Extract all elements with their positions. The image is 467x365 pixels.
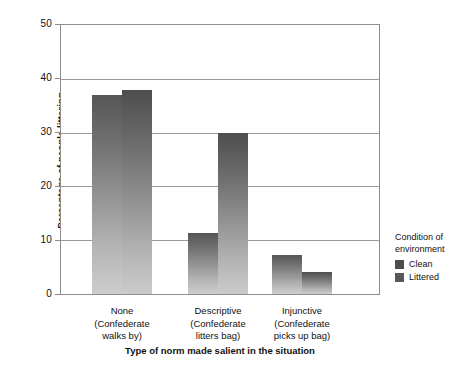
x-group-sub2-none: walks by) xyxy=(67,330,177,343)
x-group-label-injunctive: Injunctive (Confederate picks up bag) xyxy=(247,305,357,343)
y-tick-label-0: 0 xyxy=(4,289,52,299)
y-tick-20: 20 xyxy=(0,181,52,191)
x-group-sub1-injunctive: (Confederate xyxy=(247,318,357,331)
legend-label-littered: Littered xyxy=(409,272,439,282)
y-tick-label-50: 50 xyxy=(4,19,52,29)
legend-title-line1: Condition of xyxy=(395,232,443,242)
legend-item-clean: Clean xyxy=(395,259,467,269)
y-tick-40: 40 xyxy=(0,73,52,83)
y-tick-label-20: 20 xyxy=(4,181,52,191)
legend-title: Condition of environment xyxy=(395,232,467,255)
bar-descriptive-littered xyxy=(218,133,248,294)
legend: Condition of environment Clean Littered xyxy=(395,232,467,282)
gridline-40 xyxy=(61,79,379,80)
x-group-label-none: None (Confederate walks by) xyxy=(67,305,177,343)
y-tick-label-10: 10 xyxy=(4,235,52,245)
bar-chart-figure: Percentage of people littering 50 40 30 … xyxy=(0,0,467,365)
y-tick-10: 10 xyxy=(0,235,52,245)
bar-injunctive-littered xyxy=(302,272,332,294)
legend-swatch-littered-icon xyxy=(395,273,404,282)
bar-none-clean xyxy=(92,95,122,294)
y-tick-label-30: 30 xyxy=(4,127,52,137)
y-tick-label-40: 40 xyxy=(4,73,52,83)
x-group-sub2-injunctive: picks up bag) xyxy=(247,330,357,343)
bar-injunctive-clean xyxy=(272,255,302,294)
x-group-category-none: None xyxy=(67,305,177,318)
bar-descriptive-clean xyxy=(188,233,218,294)
legend-swatch-clean-icon xyxy=(395,260,404,269)
plot-area xyxy=(60,24,380,295)
x-group-sub1-none: (Confederate xyxy=(67,318,177,331)
legend-label-clean: Clean xyxy=(409,259,433,269)
y-tick-50: 50 xyxy=(0,19,52,29)
bar-none-littered xyxy=(122,90,152,294)
y-tick-30: 30 xyxy=(0,127,52,137)
x-axis-title: Type of norm made salient in the situati… xyxy=(50,345,390,356)
x-group-category-injunctive: Injunctive xyxy=(247,305,357,318)
y-tick-0: 0 xyxy=(0,289,52,299)
legend-title-line2: environment xyxy=(395,244,445,254)
legend-item-littered: Littered xyxy=(395,272,467,282)
